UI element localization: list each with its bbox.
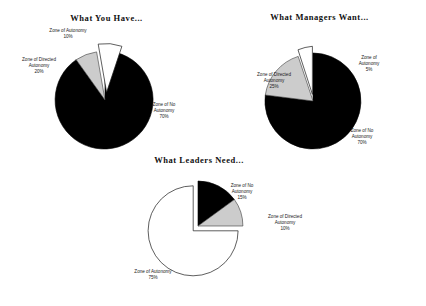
chart-title-what-managers-want: What Managers Want... [213,12,426,22]
slide-canvas: What You Have... Zone of Autonomy 10% Zo… [0,0,426,306]
pie-chart-what-managers-want: What Managers Want... Zone of Autonomy 5… [213,0,426,155]
label-directed-autonomy: Zone of Directed Autonomy 10% [246,214,324,233]
label-directed-autonomy: Zone of Directed Autonomy 25% [235,72,313,91]
label-no-autonomy: Zone of No Autonomy 70% [329,128,395,147]
label-no-autonomy: Zone of No Autonomy 70% [134,102,194,121]
label-directed-autonomy: Zone of Directed Autonomy 20% [0,57,78,76]
pie-chart-what-leaders-need: What Leaders Need... Zone of No Autonomy… [106,150,336,306]
chart-title-what-leaders-need: What Leaders Need... [106,155,292,165]
label-autonomy: Zone of Autonomy 10% [20,28,116,40]
chart-title-what-you-have: What You Have... [0,13,213,23]
label-no-autonomy: Zone of No Autonomy 15% [210,183,274,202]
pie-chart-what-you-have: What You Have... Zone of Autonomy 10% Zo… [0,0,213,150]
label-autonomy: Zone of Autonomy 5% [339,55,399,74]
label-autonomy: Zone of Autonomy 75% [110,269,196,281]
